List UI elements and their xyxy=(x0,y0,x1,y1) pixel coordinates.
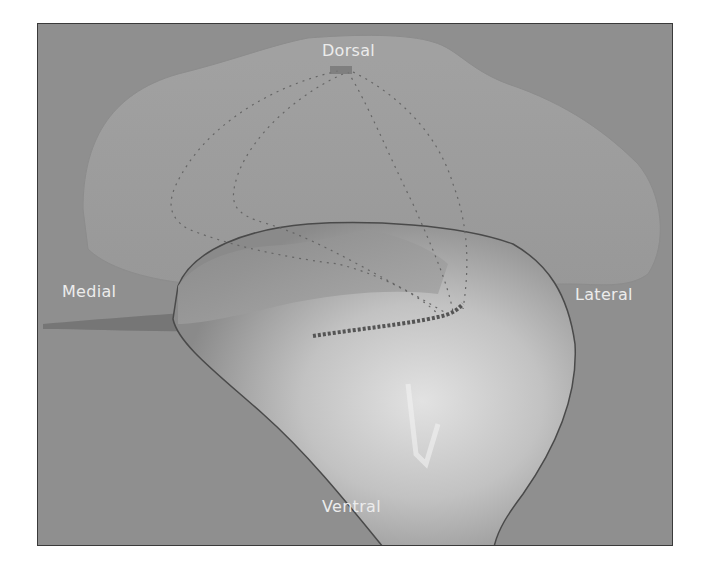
label-medial: Medial xyxy=(62,282,116,301)
top-anchor xyxy=(330,66,352,74)
label-dorsal: Dorsal xyxy=(322,41,375,60)
label-ventral: Ventral xyxy=(322,497,381,516)
label-lateral: Lateral xyxy=(575,285,633,304)
render-viewport: Dorsal Medial Lateral Ventral xyxy=(37,23,673,546)
